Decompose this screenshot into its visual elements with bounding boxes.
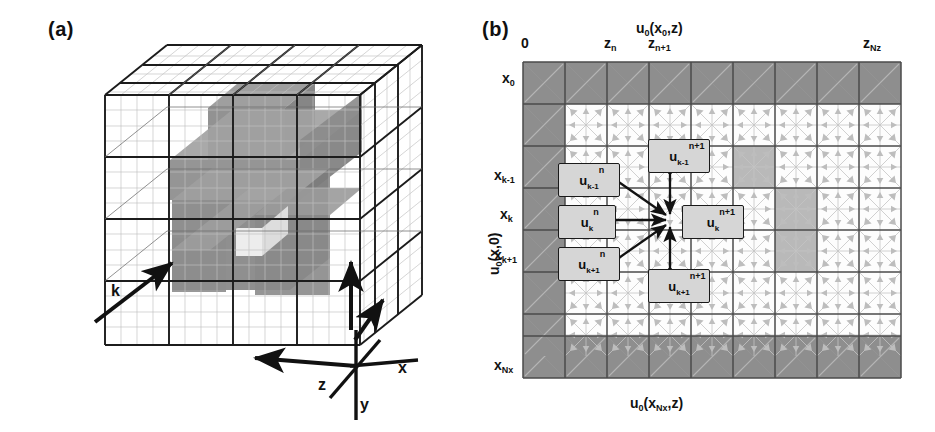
node-base: u bbox=[669, 149, 677, 164]
node-sup: n+1 bbox=[690, 271, 706, 281]
node-sup: n+1 bbox=[689, 141, 705, 151]
node-base: u bbox=[581, 215, 589, 230]
node-sub: k-1 bbox=[587, 182, 599, 191]
axis-label-x: x bbox=[398, 360, 407, 376]
panel-a: (a) bbox=[0, 0, 470, 432]
node-sup: n+1 bbox=[719, 207, 735, 217]
figure-root: (a) bbox=[0, 0, 935, 432]
stencil-node-u-k-n[interactable]: ukn bbox=[558, 205, 616, 239]
stencil-node-u-k-minus-1-n-plus-1[interactable]: uk-1n+1 bbox=[648, 139, 710, 173]
coarse-grid-right bbox=[360, 45, 422, 345]
node-sub: k bbox=[589, 224, 593, 233]
shaded-voxel-cluster bbox=[170, 83, 362, 295]
node-base: u bbox=[579, 173, 587, 188]
node-sub: k+1 bbox=[676, 288, 690, 297]
axis-label-y: y bbox=[360, 397, 369, 413]
stencil-node-u-k-n-plus-1[interactable]: ukn+1 bbox=[682, 205, 744, 239]
axis-label-k: k bbox=[111, 283, 120, 299]
top-boundary-row bbox=[523, 62, 901, 104]
z-direction-arrow bbox=[255, 358, 356, 366]
k-direction-arrow bbox=[95, 263, 172, 322]
stencil-node-u-k-plus-1-n[interactable]: uk+1n bbox=[558, 247, 620, 281]
node-sub: k+1 bbox=[586, 266, 600, 275]
panel-b: (b) u0(x0,z) u0(xNx,z) u0(x,0) 0 zn zn+1… bbox=[470, 0, 935, 432]
node-base: u bbox=[578, 257, 586, 272]
node-sub: k bbox=[715, 224, 719, 233]
node-sup: n bbox=[593, 207, 599, 217]
stencil-node-u-k-plus-1-n-plus-1[interactable]: uk+1n+1 bbox=[648, 269, 710, 303]
node-sub: k-1 bbox=[677, 158, 689, 167]
node-sup: n bbox=[600, 249, 606, 259]
axis-label-z: z bbox=[318, 377, 326, 393]
node-sup: n bbox=[599, 165, 605, 175]
stencil-node-u-k-minus-1-n[interactable]: uk-1n bbox=[558, 163, 620, 197]
node-base: u bbox=[668, 279, 676, 294]
node-base: u bbox=[707, 215, 715, 230]
